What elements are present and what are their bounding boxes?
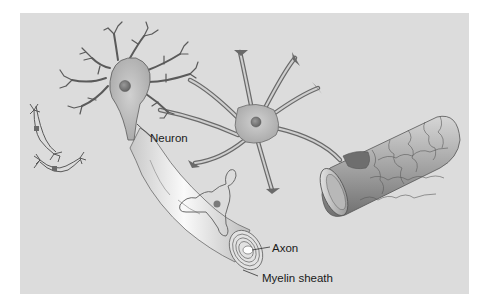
oligodendrocyte-nucleus — [214, 201, 221, 208]
neuron-diagram: Neuron Axon Myelin sheath — [0, 0, 488, 307]
label-axon: Axon — [272, 242, 298, 254]
axon-core — [243, 246, 253, 254]
astrocyte-nucleus — [251, 117, 261, 127]
myelinated-axon — [130, 128, 269, 276]
neuron-nucleus — [120, 81, 131, 92]
label-myelin-sheath: Myelin sheath — [262, 272, 333, 284]
small-neuron-1 — [30, 104, 62, 162]
blood-vessel — [314, 116, 460, 219]
neuron-cell-body — [110, 58, 150, 140]
small-neuron-2-body — [52, 166, 57, 171]
label-neuron: Neuron — [150, 132, 188, 144]
small-neuron-2 — [34, 152, 86, 172]
small-neuron-1-body — [34, 126, 39, 131]
